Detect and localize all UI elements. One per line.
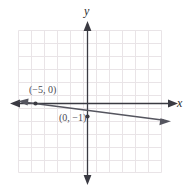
point-label-x-intercept: (−5, 0) — [29, 85, 56, 95]
y-axis-label: y — [84, 5, 89, 17]
graph-figure: y x (−5, 0) (0, −1) — [0, 0, 191, 189]
grid-lines — [19, 31, 162, 173]
x-axis-label: x — [177, 97, 182, 109]
point-label-y-intercept: (0, −1) — [59, 113, 86, 123]
point-x-intercept — [33, 101, 37, 105]
